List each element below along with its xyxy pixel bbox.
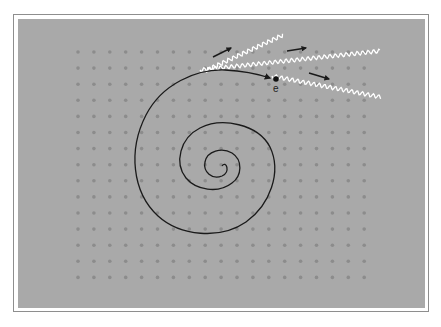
lattice-dot	[267, 131, 271, 135]
lattice-dot	[108, 147, 112, 151]
lattice-dot	[124, 260, 128, 264]
lattice-dot	[315, 260, 319, 264]
lattice-dot	[203, 260, 207, 264]
lattice-dot	[124, 163, 128, 167]
lattice-dot	[347, 82, 351, 86]
lattice-dot	[267, 66, 271, 70]
lattice-dot	[315, 179, 319, 183]
lattice-dot	[219, 260, 223, 264]
lattice-dot	[108, 115, 112, 119]
lattice-dot	[172, 50, 176, 54]
lattice-dot	[219, 276, 223, 280]
lattice-dot	[156, 195, 160, 199]
lattice-dot	[283, 131, 287, 135]
lattice-dot	[156, 66, 160, 70]
lattice-dot	[203, 195, 207, 199]
lattice-dot	[347, 260, 351, 264]
lattice-dot	[172, 211, 176, 215]
lattice-dot	[188, 227, 192, 231]
lattice-dot	[219, 99, 223, 103]
lattice-dot	[283, 227, 287, 231]
lattice-dot	[267, 227, 271, 231]
lattice-dot	[76, 66, 80, 70]
lattice-dot	[140, 66, 144, 70]
lattice-dot	[331, 195, 335, 199]
lattice-dot	[251, 195, 255, 199]
lattice-dot	[140, 163, 144, 167]
lattice-dot	[188, 276, 192, 280]
lattice-dot	[315, 195, 319, 199]
lattice-dot	[251, 147, 255, 151]
lattice-dot	[140, 82, 144, 86]
lattice-dot	[156, 163, 160, 167]
lattice-dot	[315, 227, 319, 231]
lattice-dot	[172, 115, 176, 119]
lattice-dot	[92, 99, 96, 103]
lattice-dot	[251, 115, 255, 119]
lattice-dot	[267, 179, 271, 183]
lattice-dot	[315, 131, 319, 135]
lattice-dot	[267, 260, 271, 264]
lattice-dot	[156, 243, 160, 247]
lattice-dot	[251, 276, 255, 280]
lattice-dot	[108, 243, 112, 247]
lattice-dot	[331, 99, 335, 103]
lattice-dot	[156, 82, 160, 86]
lattice-dot	[362, 195, 366, 199]
lattice-dot	[124, 147, 128, 151]
lattice-dot	[76, 179, 80, 183]
lattice-dot	[283, 260, 287, 264]
lattice-dot	[140, 179, 144, 183]
lattice-dot	[299, 147, 303, 151]
lattice-dot	[331, 211, 335, 215]
lattice-dot	[172, 179, 176, 183]
lattice-dot	[219, 115, 223, 119]
lattice-dot	[315, 115, 319, 119]
lattice-dot	[235, 147, 239, 151]
lattice-dot	[203, 131, 207, 135]
electron-label: e	[273, 83, 279, 94]
lattice-dot	[235, 115, 239, 119]
lattice-dot	[172, 147, 176, 151]
lattice-dot	[299, 227, 303, 231]
lattice-dot	[76, 147, 80, 151]
lattice-dot	[140, 211, 144, 215]
lattice-dot	[283, 66, 287, 70]
lattice-dot	[267, 50, 271, 54]
lattice-dot	[235, 260, 239, 264]
lattice-dot	[108, 99, 112, 103]
lattice-dot	[299, 115, 303, 119]
lattice-dot	[108, 163, 112, 167]
lattice-dot	[331, 179, 335, 183]
lattice-dot	[219, 227, 223, 231]
arrow-middle-icon	[287, 48, 306, 51]
lattice-dot	[362, 147, 366, 151]
lattice-dot	[267, 163, 271, 167]
lattice-dot	[140, 115, 144, 119]
lattice-dot	[188, 243, 192, 247]
lattice-dot	[124, 131, 128, 135]
lattice-dot	[299, 50, 303, 54]
lattice-dot	[362, 99, 366, 103]
lattice-dot	[315, 211, 319, 215]
lattice-dot	[108, 195, 112, 199]
lattice-dot	[203, 211, 207, 215]
lattice-dot	[140, 243, 144, 247]
lattice-dot	[299, 260, 303, 264]
lattice-dot	[219, 82, 223, 86]
lattice-dot	[92, 195, 96, 199]
lattice-dot	[124, 66, 128, 70]
lattice-dot	[92, 179, 96, 183]
lattice-dot	[283, 99, 287, 103]
lattice-dot	[188, 163, 192, 167]
lattice-dot	[172, 276, 176, 280]
lattice-dot	[108, 82, 112, 86]
lattice-dot	[283, 50, 287, 54]
lattice-dot	[124, 243, 128, 247]
lattice-dot	[156, 179, 160, 183]
lattice-dot	[108, 50, 112, 54]
lattice-dot	[347, 147, 351, 151]
lattice-dot	[362, 227, 366, 231]
lattice-dot	[156, 115, 160, 119]
lattice-dot	[92, 276, 96, 280]
